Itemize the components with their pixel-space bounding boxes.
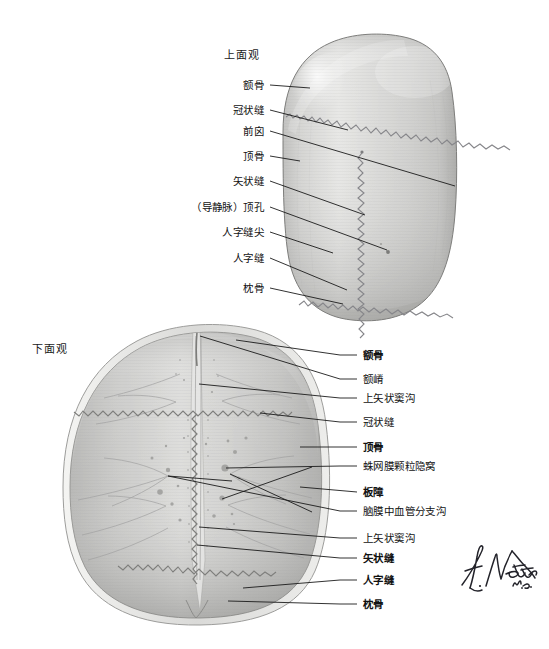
label-frontal-bone: 额骨 (243, 79, 264, 91)
anatomy-plate: 上面观 下面观 额骨冠状缝前囟顶骨矢状缝（导静脉）顶孔人字缝尖人字缝枕骨 额骨额… (0, 0, 549, 649)
artist-signature: F. Netter M.D. (456, 541, 538, 599)
parietal-foramen-dot (386, 250, 390, 254)
label-granular-foveolae: 蛛网膜颗粒隐窝 (363, 460, 436, 472)
label-parietal-bone: 顶骨 (363, 441, 384, 453)
label-occipital-bone: 枕骨 (243, 282, 264, 294)
label-coronal-suture: 冠状缝 (233, 104, 264, 116)
superior-view-title: 上面观 (224, 46, 261, 62)
label-lambdoid-suture: 人字缝 (363, 574, 394, 586)
label-parietal-bone: 顶骨 (243, 150, 264, 162)
label-sagittal-sulcus-lower: 上矢状窦沟 (363, 532, 415, 544)
label-bregma: 前囟 (243, 125, 264, 137)
label-coronal-suture: 冠状缝 (363, 416, 394, 428)
label-lambdoid-suture: 人字缝 (233, 252, 264, 264)
inferior-skull-figure (55, 320, 340, 630)
label-occipital-bone: 枕骨 (363, 598, 384, 610)
label-parietal-foramen: （导静脉）顶孔 (191, 201, 264, 213)
label-lambda: 人字缝尖 (222, 226, 264, 238)
label-frontal-bone: 额骨 (363, 349, 384, 361)
label-sagittal-sulcus-upper: 上矢状窦沟 (363, 392, 415, 404)
label-diploe: 板障 (363, 486, 384, 498)
label-middle-meningeal-grooves: 脑膜中血管分支沟 (363, 505, 446, 517)
label-sagittal-suture: 矢状缝 (233, 175, 264, 187)
frontal-crest-line (196, 332, 197, 366)
superior-skull-figure (270, 25, 510, 338)
inferior-view-title: 下面观 (32, 340, 69, 356)
label-sagittal-suture: 矢状缝 (363, 552, 394, 564)
label-frontal-crest: 额嵴 (363, 373, 384, 385)
